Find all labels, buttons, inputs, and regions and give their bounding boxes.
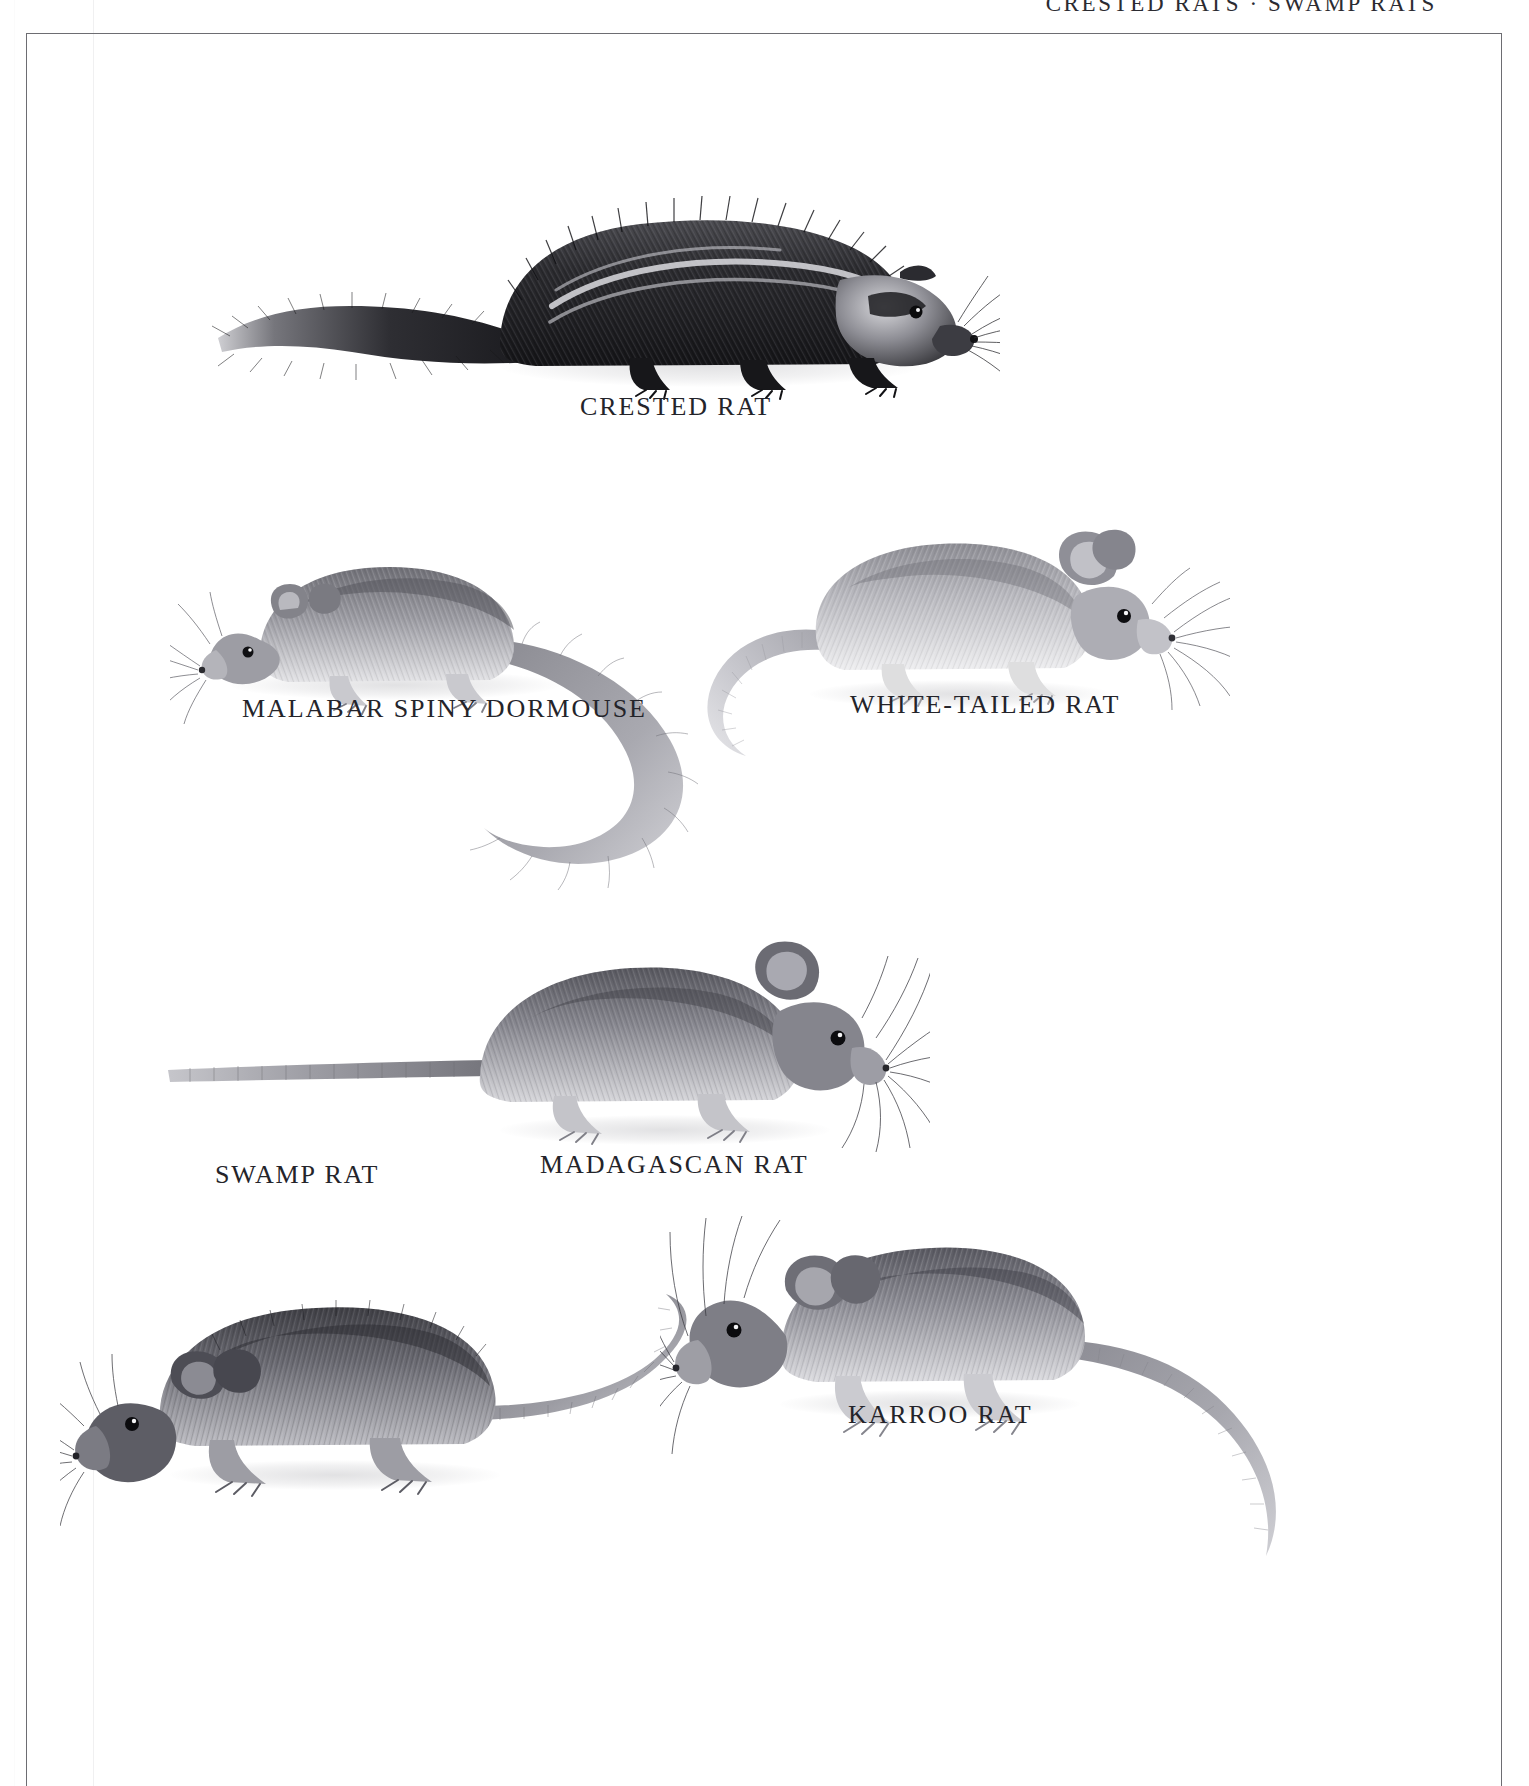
caption-karroo-rat: KARROO RAT: [848, 1400, 1032, 1430]
artwork-karroo-rat: [660, 1170, 1360, 1570]
artwork-swamp-rat: [60, 1220, 760, 1560]
caption-white-tailed-rat: WHITE-TAILED RAT: [850, 690, 1120, 720]
figure-malabar-spiny-dormouse: MALABAR SPINY DORMOUSE: [170, 490, 730, 890]
artwork-malabar-spiny-dormouse: [170, 490, 730, 890]
figure-karroo-rat: KARROO RAT: [660, 1170, 1360, 1570]
plate-artwork-area: CRESTED RAT: [0, 0, 1529, 1786]
caption-malabar-spiny-dormouse: MALABAR SPINY DORMOUSE: [242, 694, 647, 724]
artwork-crested-rat: [200, 130, 1000, 400]
figure-crested-rat: CRESTED RAT: [200, 130, 1000, 400]
artwork-white-tailed-rat: [690, 490, 1230, 780]
caption-swamp-rat: SWAMP RAT: [215, 1160, 379, 1190]
figure-white-tailed-rat: WHITE-TAILED RAT: [690, 490, 1230, 780]
illustration-plate-page: CRESTED RATS · SWAMP RATS: [0, 0, 1529, 1786]
figure-swamp-rat: SWAMP RAT: [60, 1220, 760, 1560]
caption-crested-rat: CRESTED RAT: [580, 392, 772, 422]
